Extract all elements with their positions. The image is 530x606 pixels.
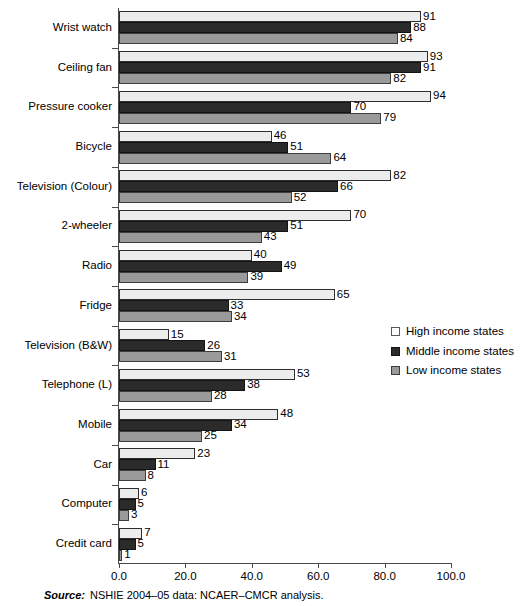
- bar-row: 79: [119, 113, 451, 124]
- category-label: Mobile: [78, 419, 112, 431]
- bar-high[interactable]: 91: [119, 11, 421, 22]
- bar-row: 46: [119, 131, 451, 142]
- bar-value-label: 15: [171, 329, 184, 341]
- bar-row: 93: [119, 51, 451, 62]
- category-label: Car: [93, 459, 112, 471]
- legend-item[interactable]: Middle income states: [391, 346, 514, 358]
- legend-swatch-middle: [391, 347, 400, 356]
- legend-item[interactable]: Low income states: [391, 365, 514, 377]
- bar-low[interactable]: 43: [119, 232, 262, 243]
- category-label: Wrist watch: [53, 22, 112, 34]
- bar-middle[interactable]: 88: [119, 22, 411, 33]
- bar-value-label: 70: [353, 102, 366, 114]
- bar-value-label: 51: [290, 141, 303, 153]
- y-axis-tick: [112, 87, 118, 88]
- y-axis-tick: [112, 167, 118, 168]
- bar-low[interactable]: 1: [119, 550, 122, 561]
- bar-row: 7: [119, 528, 451, 539]
- bar-middle[interactable]: 70: [119, 102, 351, 113]
- bar-row: 65: [119, 289, 451, 300]
- bar-value-label: 25: [204, 430, 217, 442]
- category-label: Computer: [62, 498, 113, 510]
- category-group: Television (Colour)826652: [119, 170, 451, 203]
- bar-value-label: 94: [433, 91, 446, 103]
- bar-high[interactable]: 48: [119, 409, 278, 420]
- bar-middle[interactable]: 91: [119, 62, 421, 73]
- category-group: Fridge653334: [119, 289, 451, 322]
- bar-value-label: 34: [234, 419, 247, 431]
- bar-middle[interactable]: 33: [119, 300, 229, 311]
- plot-area: Wrist watch918884Ceiling fan939182Pressu…: [119, 8, 451, 564]
- bar-value-label: 26: [207, 340, 220, 352]
- bar-value-label: 8: [148, 470, 154, 482]
- x-axis-tick: [385, 563, 386, 568]
- bar-high[interactable]: 15: [119, 329, 169, 340]
- bar-high[interactable]: 53: [119, 369, 295, 380]
- bar-low[interactable]: 82: [119, 73, 391, 84]
- bar-value-label: 52: [294, 192, 307, 204]
- bar-low[interactable]: 79: [119, 113, 381, 124]
- bar-low[interactable]: 84: [119, 33, 398, 44]
- bar-row: 70: [119, 102, 451, 113]
- category-label: Television (Colour): [17, 181, 112, 193]
- bar-low[interactable]: 52: [119, 192, 292, 203]
- category-group: Bicycle465164: [119, 131, 451, 164]
- bar-low[interactable]: 25: [119, 431, 202, 442]
- bar-value-label: 43: [264, 232, 277, 244]
- x-axis-tick-label: 80.0: [373, 571, 395, 583]
- bar-low[interactable]: 3: [119, 510, 129, 521]
- bar-row: 43: [119, 232, 451, 243]
- bar-high[interactable]: 94: [119, 91, 431, 102]
- category-group: 2-wheeler705143: [119, 210, 451, 243]
- bar-value-label: 28: [214, 391, 227, 403]
- category-group: Ceiling fan939182: [119, 51, 451, 84]
- bar-middle[interactable]: 26: [119, 340, 205, 351]
- bar-high[interactable]: 40: [119, 250, 252, 261]
- y-axis-tick: [112, 524, 118, 525]
- y-axis-tick: [112, 48, 118, 49]
- legend-swatch-low: [391, 366, 400, 375]
- bar-row: 94: [119, 91, 451, 102]
- legend-item[interactable]: High income states: [391, 326, 514, 338]
- bar-low[interactable]: 64: [119, 153, 331, 164]
- bar-row: 52: [119, 192, 451, 203]
- bar-value-label: 79: [383, 113, 396, 125]
- category-group: Car23118: [119, 448, 451, 481]
- bar-value-label: 34: [234, 311, 247, 323]
- category-label: 2-wheeler: [62, 220, 113, 232]
- bar-middle[interactable]: 51: [119, 142, 288, 153]
- bar-row: 6: [119, 488, 451, 499]
- bar-low[interactable]: 28: [119, 391, 212, 402]
- category-label: Ceiling fan: [58, 62, 112, 74]
- bar-low[interactable]: 31: [119, 351, 222, 362]
- bar-row: 82: [119, 73, 451, 84]
- bar-row: 84: [119, 33, 451, 44]
- bar-value-label: 64: [333, 152, 346, 164]
- category-group: Radio404939: [119, 250, 451, 283]
- category-label: Pressure cooker: [28, 101, 112, 113]
- x-axis-tick-label: 0.0: [111, 571, 127, 583]
- bar-high[interactable]: 65: [119, 289, 335, 300]
- category-label: Credit card: [56, 538, 112, 550]
- bar-high[interactable]: 46: [119, 131, 272, 142]
- bar-row: 33: [119, 300, 451, 311]
- bar-low[interactable]: 8: [119, 470, 146, 481]
- bar-low[interactable]: 34: [119, 311, 232, 322]
- bar-row: 5: [119, 499, 451, 510]
- bar-high[interactable]: 93: [119, 51, 428, 62]
- bar-high[interactable]: 6: [119, 488, 139, 499]
- bar-value-label: 82: [393, 170, 406, 182]
- bar-low[interactable]: 39: [119, 272, 248, 283]
- source-note: Source:NSHIE 2004–05 data: NCAER–CMCR an…: [44, 590, 324, 601]
- category-label: Radio: [82, 260, 112, 272]
- bar-row: 48: [119, 409, 451, 420]
- x-axis-tick: [119, 563, 120, 568]
- bar-row: 82: [119, 170, 451, 181]
- bar-row: 66: [119, 181, 451, 192]
- bar-high[interactable]: 70: [119, 210, 351, 221]
- bar-value-label: 23: [197, 448, 210, 460]
- category-group: Wrist watch918884: [119, 11, 451, 44]
- bar-value-label: 7: [144, 527, 150, 539]
- bar-value-label: 66: [340, 181, 353, 193]
- bar-chart: Wrist watch918884Ceiling fan939182Pressu…: [0, 0, 530, 606]
